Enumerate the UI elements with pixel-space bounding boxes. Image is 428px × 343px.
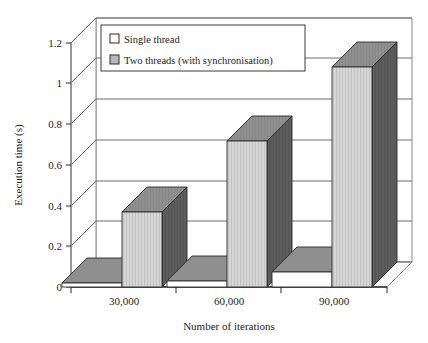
legend-swatch-single-thread [110,34,119,43]
y-tick-label-0_6: 0.6 [48,159,62,171]
y-tick-label-0_8: 0.8 [48,118,62,130]
y-axis-title: Execution time (s) [12,124,25,206]
y-tick-label-1_2: 1.2 [48,37,62,49]
x-axis-title: Number of iterations [183,320,275,332]
y-tick-label-0_2: 0.2 [48,240,62,252]
chart-figure: 1.2 1 0.8 0.6 0.4 0.2 0 Execution time (… [0,0,428,343]
bar-chart-svg: 1.2 1 0.8 0.6 0.4 0.2 0 Execution time (… [0,0,428,343]
legend-label-two-threads: Two threads (with synchronisation) [124,55,273,67]
y-tick-label-1: 1 [57,77,63,89]
legend-label-single-thread: Single thread [124,34,180,45]
y-tick-label-0_4: 0.4 [48,200,62,212]
bar-two-threads-90000 [332,42,397,287]
x-tick-label-60000: 60,000 [214,295,245,307]
legend-swatch-two-threads [110,55,119,64]
chart-legend: Single thread Two threads (with synchron… [101,25,305,71]
x-tick-label-90000: 90,000 [319,295,350,307]
x-tick-label-30000: 30,000 [109,295,140,307]
